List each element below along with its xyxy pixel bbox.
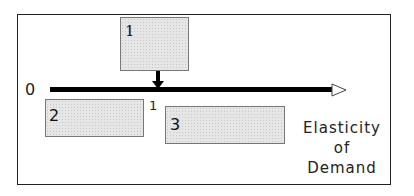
axis-title-line-3: Demand	[296, 158, 388, 178]
tick-label-one: 1	[149, 98, 157, 113]
axis-arrowhead-icon	[331, 83, 347, 97]
box-2-label: 2	[49, 106, 59, 125]
box-3: 3	[165, 106, 285, 144]
axis-title: Elasticity of Demand	[296, 118, 388, 178]
box-3-label: 3	[170, 115, 180, 134]
elasticity-axis	[50, 87, 332, 92]
axis-title-line-1: Elasticity	[296, 118, 388, 138]
axis-title-line-2: of	[296, 138, 388, 158]
box-1: 1	[120, 17, 189, 71]
box-1-label: 1	[125, 22, 135, 40]
origin-label: 0	[25, 80, 35, 99]
box-2: 2	[45, 99, 144, 137]
